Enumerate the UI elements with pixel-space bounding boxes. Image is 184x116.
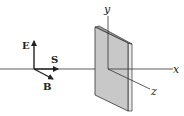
e-vector-label: E bbox=[22, 40, 30, 51]
plate bbox=[95, 26, 132, 111]
em-wave-plate-diagram: y x z E S B bbox=[0, 0, 184, 116]
b-vector-arrow bbox=[34, 69, 53, 79]
y-axis-label: y bbox=[103, 3, 111, 16]
s-vector-label: S bbox=[51, 54, 58, 65]
z-axis-label: z bbox=[150, 85, 157, 98]
x-axis-label: x bbox=[173, 63, 180, 76]
b-vector-label: B bbox=[43, 81, 51, 92]
plate-side-edge bbox=[128, 43, 132, 111]
